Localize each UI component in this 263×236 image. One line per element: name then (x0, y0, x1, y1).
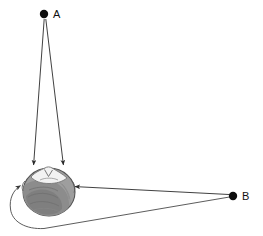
source-b-label: B (242, 190, 249, 202)
source-a-dot (40, 10, 48, 18)
diagram-canvas: A B (0, 0, 263, 236)
ray-a-to-right-ear (46, 19, 64, 165)
source-a-label: A (53, 8, 61, 20)
source-a: A (40, 8, 61, 20)
ray-a-to-left-ear (34, 19, 45, 165)
ray-b-to-near-ear (75, 187, 229, 195)
head-top-view (22, 167, 75, 217)
sound-localization-diagram: A B (0, 0, 263, 236)
source-b: B (229, 190, 250, 202)
source-b-dot (229, 192, 237, 200)
